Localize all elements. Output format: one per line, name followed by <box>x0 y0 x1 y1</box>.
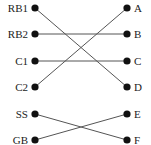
matching-diagram: RB1RB2C1C2SSGB ABCDEF <box>0 0 151 145</box>
node-dot-b <box>123 30 130 37</box>
node-dot-d <box>123 83 130 90</box>
node-dot-ss <box>31 110 38 117</box>
node-label-gb: GB <box>13 134 28 145</box>
edges-group <box>35 8 127 140</box>
right-nodes-group: ABCDEF <box>123 2 142 145</box>
node-dot-f <box>123 136 130 143</box>
node-label-e: E <box>134 108 141 120</box>
node-label-ss: SS <box>16 108 28 120</box>
node-dot-e <box>123 110 130 117</box>
node-label-c: C <box>134 55 141 67</box>
node-dot-gb <box>31 136 38 143</box>
node-label-c2: C2 <box>15 81 28 93</box>
node-dot-c2 <box>31 83 38 90</box>
node-dot-rb1 <box>31 4 38 11</box>
node-dot-c <box>123 57 130 64</box>
node-dot-rb2 <box>31 30 38 37</box>
left-nodes-group: RB1RB2C1C2SSGB <box>8 2 39 145</box>
node-label-f: F <box>134 134 140 145</box>
node-label-a: A <box>134 2 142 14</box>
node-label-rb2: RB2 <box>8 28 28 40</box>
node-label-c1: C1 <box>15 55 28 67</box>
node-label-d: D <box>134 81 142 93</box>
node-dot-a <box>123 4 130 11</box>
node-dot-c1 <box>31 57 38 64</box>
node-label-b: B <box>134 28 141 40</box>
node-label-rb1: RB1 <box>8 2 28 14</box>
